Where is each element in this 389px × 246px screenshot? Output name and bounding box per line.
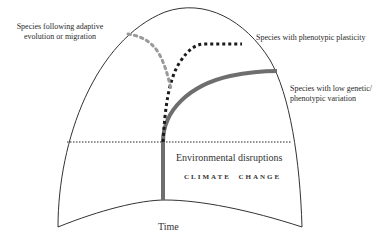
base-curve: [58, 200, 302, 227]
adaptive-evolution-curve: [128, 34, 171, 90]
label-climate-change: CLIMATE CHANGE: [184, 172, 281, 182]
label-time-axis: Time: [158, 222, 179, 232]
plasticity-curve: [163, 44, 242, 142]
label-adaptive-line-2: evolution or migration: [8, 32, 112, 42]
label-adaptive-line-1: Species following adaptive: [8, 22, 112, 32]
label-low-variation-line-2: phenotypic variation: [290, 94, 372, 104]
label-adaptive-evolution: Species following adaptive evolution or …: [8, 22, 112, 42]
label-phenotypic-plasticity: Species with phenotypic plasticity: [256, 33, 366, 43]
label-low-variation-line-1: Species with low genetic/: [290, 84, 372, 94]
label-low-variation: Species with low genetic/ phenotypic var…: [290, 84, 372, 104]
low-variation-curve: [163, 71, 277, 142]
label-environmental-disruptions: Environmental disruptions: [176, 153, 282, 163]
